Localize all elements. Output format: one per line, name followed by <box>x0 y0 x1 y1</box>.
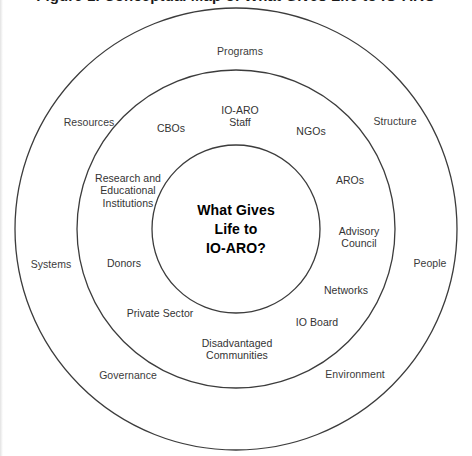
concentric-circle-diagram: What Gives Life to IO-ARO? CBOsIO-ARO St… <box>0 0 472 456</box>
ring-label-people: People <box>414 257 447 269</box>
ring-label-advisory-council: Advisory Council <box>339 225 380 250</box>
ring-label-aros: AROs <box>336 174 364 186</box>
ring-label-cbos: CBOs <box>157 122 185 134</box>
ring-label-structure: Structure <box>373 115 416 127</box>
ring-label-programs: Programs <box>217 45 263 57</box>
ring-label-disadvantaged-communities: Disadvantaged Communities <box>202 337 273 362</box>
ring-label-io-aro-staff: IO-ARO Staff <box>221 104 259 129</box>
ring-label-ngos: NGOs <box>296 125 325 137</box>
ring-label-environment: Environment <box>325 368 385 380</box>
ring-label-donors: Donors <box>107 257 141 269</box>
ring-label-systems: Systems <box>31 258 72 270</box>
core-question-label: What Gives Life to IO-ARO? <box>197 201 275 258</box>
ring-label-research-and-educational-institutions: Research and Educational Institutions <box>95 172 161 209</box>
ring-label-private-sector: Private Sector <box>127 307 194 319</box>
ring-label-resources: Resources <box>64 116 115 128</box>
ring-label-governance: Governance <box>99 369 157 381</box>
ring-label-networks: Networks <box>324 284 368 296</box>
ring-label-io-board: IO Board <box>296 316 338 328</box>
